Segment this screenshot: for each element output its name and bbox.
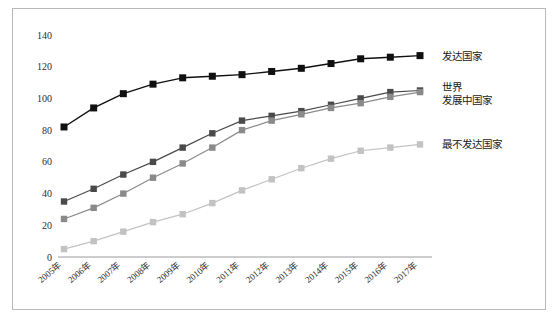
data-point-marker xyxy=(179,211,185,217)
data-point-marker xyxy=(387,94,393,100)
data-point-marker xyxy=(209,144,215,150)
data-point-marker xyxy=(120,228,126,234)
data-point-marker xyxy=(387,144,393,150)
data-point-marker xyxy=(209,130,215,136)
data-point-marker xyxy=(61,216,67,222)
data-point-marker xyxy=(268,176,274,182)
x-axis-tick-label: 2014年 xyxy=(303,259,331,285)
data-point-marker xyxy=(150,159,156,165)
series-3 xyxy=(61,89,423,222)
legend-label: 最不发达国家 xyxy=(442,138,503,150)
data-point-marker xyxy=(150,175,156,181)
data-point-marker xyxy=(328,105,334,111)
data-point-marker xyxy=(150,219,156,225)
data-point-marker xyxy=(61,246,67,252)
data-point-marker xyxy=(239,127,245,133)
data-point-marker xyxy=(328,155,334,161)
data-point-marker xyxy=(120,171,126,177)
y-axis-tick-label: 60 xyxy=(42,156,52,167)
y-axis-tick-label: 20 xyxy=(42,220,52,231)
x-axis-tick-label: 2013年 xyxy=(273,259,301,285)
data-point-marker xyxy=(357,100,363,106)
data-point-marker xyxy=(417,89,423,95)
data-point-marker xyxy=(298,111,304,117)
series-line xyxy=(64,56,420,127)
series-4 xyxy=(61,141,423,252)
data-point-marker xyxy=(209,73,216,80)
data-point-marker xyxy=(90,205,96,211)
x-axis-tick-label: 2006年 xyxy=(65,259,93,285)
data-point-marker xyxy=(417,52,424,59)
y-axis-tick-label: 140 xyxy=(37,30,52,41)
y-axis-tick-label: 100 xyxy=(37,93,52,104)
data-point-marker xyxy=(90,104,97,111)
data-point-marker xyxy=(298,165,304,171)
series-line xyxy=(64,91,420,202)
x-axis-tick-label: 2017年 xyxy=(392,259,420,285)
chart-plot-area: 020406080100120140 2005年2006年2007年2008年2… xyxy=(0,0,558,322)
data-point-marker xyxy=(239,117,245,123)
data-point-marker xyxy=(298,65,305,72)
y-axis-tick-label: 120 xyxy=(37,61,52,72)
data-point-marker xyxy=(150,81,157,88)
x-axis-tick-label: 2012年 xyxy=(243,259,271,285)
line-chart-svg: 020406080100120140 2005年2006年2007年2008年2… xyxy=(0,0,558,322)
x-axis-tick-label: 2009年 xyxy=(154,259,182,285)
chart-screenshot: 020406080100120140 2005年2006年2007年2008年2… xyxy=(0,0,558,322)
data-point-marker xyxy=(268,68,275,75)
legend-label: 发达国家 xyxy=(442,50,483,62)
legend: 发达国家世界发展中国家最不发达国家 xyxy=(442,50,503,151)
data-point-marker xyxy=(209,200,215,206)
data-point-marker xyxy=(328,60,335,67)
x-axis-tick-label: 2016年 xyxy=(362,259,390,285)
series-2 xyxy=(61,87,423,204)
x-axis-tick-label: 2007年 xyxy=(95,259,123,285)
series-group xyxy=(61,52,424,252)
x-axis-tick-label: 2005年 xyxy=(36,259,64,285)
data-point-marker xyxy=(90,238,96,244)
y-axis-ticks: 020406080100120140 xyxy=(37,30,52,263)
data-point-marker xyxy=(179,144,185,150)
x-axis-ticks: 2005年2006年2007年2008年2009年2010年2011年2012年… xyxy=(36,259,420,285)
x-axis-tick-label: 2015年 xyxy=(332,259,360,285)
data-point-marker xyxy=(120,90,127,97)
data-point-marker xyxy=(239,187,245,193)
y-axis-tick-label: 40 xyxy=(42,188,52,199)
data-point-marker xyxy=(417,141,423,147)
data-point-marker xyxy=(357,55,364,62)
data-point-marker xyxy=(179,160,185,166)
x-axis-tick-label: 2011年 xyxy=(214,259,242,285)
data-point-marker xyxy=(61,198,67,204)
series-line xyxy=(64,92,420,219)
data-point-marker xyxy=(239,71,246,78)
data-point-marker xyxy=(61,123,68,130)
y-axis-tick-label: 80 xyxy=(42,125,52,136)
x-axis-tick-label: 2010年 xyxy=(184,259,212,285)
data-point-marker xyxy=(387,54,394,61)
legend-label: 世界发展中国家 xyxy=(442,81,493,106)
data-point-marker xyxy=(357,148,363,154)
x-axis-tick-label: 2008年 xyxy=(125,259,153,285)
data-point-marker xyxy=(120,190,126,196)
data-point-marker xyxy=(179,74,186,81)
y-axis-tick-label: 0 xyxy=(47,252,52,263)
data-point-marker xyxy=(90,186,96,192)
data-point-marker xyxy=(268,117,274,123)
